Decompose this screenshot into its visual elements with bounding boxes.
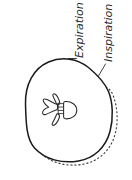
label-inspiration-group: Inspiration bbox=[94, 4, 115, 84]
label-inspiration-text: Inspiration bbox=[102, 4, 115, 62]
label-expiration-text: Expiration bbox=[73, 2, 86, 58]
diagram-canvas: Expiration Inspiration bbox=[0, 0, 132, 180]
respiration-cross-section-figure: Expiration Inspiration bbox=[0, 0, 132, 180]
